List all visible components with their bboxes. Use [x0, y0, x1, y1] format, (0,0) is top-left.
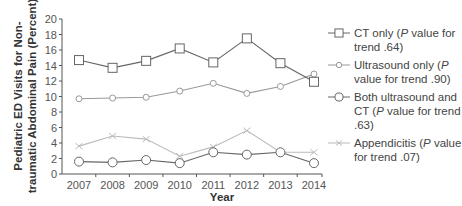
diamond-marker	[110, 95, 116, 101]
square-marker	[310, 77, 319, 86]
square-marker	[175, 44, 184, 53]
y-tick-label: 16	[45, 44, 57, 56]
x-tick-label: 2007	[67, 179, 91, 191]
circle-marker	[242, 150, 251, 159]
y-axis-title-line: Pediatric ED Visits for Non-	[12, 21, 24, 170]
square-marker	[209, 58, 218, 67]
square-marker	[276, 59, 285, 68]
series-diamond	[76, 71, 317, 102]
circle-marker	[209, 148, 218, 157]
y-tick-label: 14	[45, 60, 57, 72]
circle-marker	[108, 158, 117, 167]
square-marker	[108, 63, 117, 72]
diamond-marker	[311, 71, 317, 77]
y-axis-title-line: traumatic Abdominal Pain (Percent)	[26, 0, 38, 193]
x-axis-title: Year	[210, 191, 235, 203]
diamond-marker	[244, 90, 250, 96]
legend-item-both: Both ultrasound and CT (P value for tren…	[326, 90, 462, 132]
x-tick-label: 2011	[201, 179, 225, 191]
y-tick-label: 10	[45, 91, 57, 103]
circle-marker	[142, 156, 151, 165]
y-tick-label: 18	[45, 29, 57, 41]
y-tick-label: 0	[51, 168, 57, 180]
x-tick-label: 2014	[302, 179, 326, 191]
series-square	[75, 34, 319, 86]
y-axis-ticks: 02468101214161820	[45, 13, 62, 180]
square-marker	[142, 56, 151, 65]
x-axis-ticks: 20072008200920102011201220132014	[67, 174, 326, 191]
diamond-marker	[76, 96, 82, 102]
legend-item-appendicitis: Appendicitis (P value for trend .07)	[326, 136, 462, 164]
diamond-marker	[210, 80, 216, 86]
x-marker	[76, 143, 83, 149]
legend-label: Appendicitis (P value for trend .07)	[354, 137, 461, 163]
series-circle	[75, 148, 319, 168]
legend-item-ct-only: CT only (P value for trend .64)	[326, 26, 462, 54]
y-axis-title: Pediatric ED Visits for Non-traumatic Ab…	[12, 0, 38, 193]
circle-marker	[335, 93, 343, 101]
circle-marker	[75, 157, 84, 166]
square-marker	[335, 29, 343, 37]
series-group	[75, 34, 319, 168]
y-tick-label: 12	[45, 75, 57, 87]
legend-label: Both ultrasound and CT (P value for tren…	[354, 91, 461, 131]
square-marker	[242, 34, 251, 43]
diamond-marker-icon	[326, 59, 352, 71]
y-tick-label: 20	[45, 13, 57, 25]
x-tick-label: 2008	[100, 179, 124, 191]
circle-marker	[310, 159, 319, 168]
circle-marker	[276, 148, 285, 157]
diamond-marker	[277, 83, 283, 89]
diamond-marker	[143, 94, 149, 100]
x-tick-label: 2009	[134, 179, 158, 191]
x-marker-icon	[326, 137, 352, 149]
legend-label: Ultrasound only (P value for trend .90)	[354, 59, 451, 85]
y-tick-label: 4	[51, 137, 57, 149]
legend: CT only (P value for trend .64) Ultrasou…	[326, 26, 462, 168]
diamond-marker	[177, 88, 183, 94]
circle-marker-icon	[326, 91, 352, 103]
legend-item-ultrasound-only: Ultrasound only (P value for trend .90)	[326, 58, 462, 86]
diamond-marker	[336, 62, 341, 67]
y-tick-label: 2	[51, 153, 57, 165]
y-tick-label: 6	[51, 122, 57, 134]
x-tick-label: 2013	[268, 179, 292, 191]
x-tick-label: 2012	[235, 179, 259, 191]
x-tick-label: 2010	[167, 179, 191, 191]
y-tick-label: 8	[51, 106, 57, 118]
x-marker	[243, 128, 250, 134]
square-marker-icon	[326, 27, 352, 39]
square-marker	[75, 56, 84, 65]
legend-label: CT only (P value for trend .64)	[354, 27, 455, 53]
circle-marker	[175, 159, 184, 168]
